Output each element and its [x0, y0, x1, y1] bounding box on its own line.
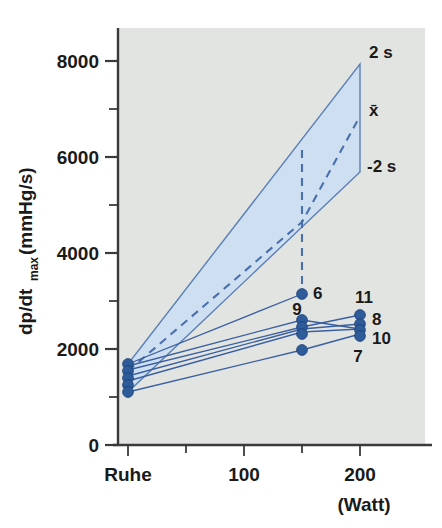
band-label-upper-2s: 2 s	[369, 43, 393, 62]
marker-150w-7	[297, 345, 308, 356]
point-label-8: 8	[372, 310, 381, 329]
y-tick-label-0: 0	[88, 435, 99, 456]
x-tick-label-200: 200	[344, 464, 376, 485]
markers-200w	[355, 310, 366, 342]
x-tick-label-ruhe: Ruhe	[104, 464, 152, 485]
point-label-9: 9	[292, 300, 301, 319]
x-axis-ticks	[128, 445, 360, 456]
y-tick-label-4000: 4000	[57, 243, 99, 264]
y-tick-label-8000: 8000	[57, 51, 99, 72]
point-label-10: 10	[372, 329, 391, 348]
dpdt-max-line-chart: 8000 6000 4000 2000 0 Ruhe 100 200 (Watt…	[0, 0, 442, 528]
point-label-6: 6	[313, 284, 322, 303]
x-axis-unit-label: (Watt)	[337, 494, 390, 515]
marker-150w-6	[297, 289, 308, 300]
figure-container: 8000 6000 4000 2000 0 Ruhe 100 200 (Watt…	[0, 0, 442, 528]
y-axis-major-ticks	[105, 61, 118, 445]
y-tick-label-6000: 6000	[57, 147, 99, 168]
y-axis-title-subscript: max	[27, 257, 41, 281]
marker-150w-b	[297, 329, 308, 340]
marker-200w-7	[355, 331, 366, 342]
point-label-7: 7	[353, 347, 362, 366]
y-axis-title-main: dp/dt	[15, 288, 36, 335]
y-tick-label-2000: 2000	[57, 339, 99, 360]
point-label-11: 11	[355, 288, 373, 307]
y-axis-title: dp/dt max (mmHg/s)	[15, 167, 41, 335]
x-tick-label-100: 100	[228, 464, 260, 485]
marker-ruhe-5	[123, 387, 134, 398]
band-label-mean: x̄	[369, 101, 379, 120]
markers-ruhe	[123, 359, 134, 398]
band-label-lower-2s: -2 s	[367, 157, 396, 176]
y-axis-title-unit: (mmHg/s)	[15, 167, 36, 255]
